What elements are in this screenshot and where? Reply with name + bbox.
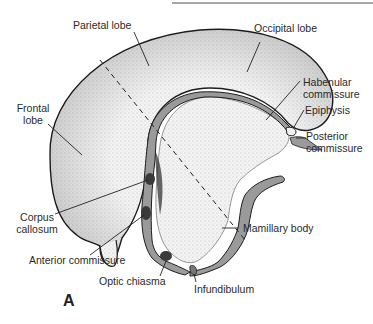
brain-diagram: Parietal lobe Occipital lobe Frontal lob… xyxy=(0,0,373,324)
label-posterior-commissure: Posterior commissure xyxy=(306,130,363,154)
label-optic-chiasma: Optic chiasma xyxy=(99,275,166,287)
diagram-drawing xyxy=(0,0,373,324)
panel-letter: A xyxy=(63,292,75,310)
label-habenular-commissure: Habenular commissure xyxy=(303,76,360,100)
label-infundibulum: Infundibulum xyxy=(194,283,254,295)
label-corpus-callosum: Corpus callosum xyxy=(12,211,62,235)
label-epiphysis: Epiphysis xyxy=(305,104,350,116)
label-frontal-lobe: Frontal lobe xyxy=(16,102,50,126)
label-occipital-lobe: Occipital lobe xyxy=(254,22,317,34)
optic-chiasma-section xyxy=(160,251,172,261)
epiphysis-shape xyxy=(286,127,296,136)
label-mamillary-body: Mamillary body xyxy=(243,222,314,234)
label-anterior-commissure: Anterior commissure xyxy=(29,254,125,266)
label-parietal-lobe: Parietal lobe xyxy=(73,19,131,31)
anterior-commissure-section xyxy=(141,206,151,220)
corpus-callosum-section xyxy=(145,173,155,185)
